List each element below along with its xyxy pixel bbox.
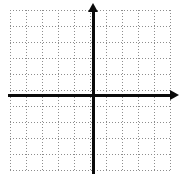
grid-line-vertical — [106, 10, 107, 172]
coordinate-grid-figure: Blank Cartesian coordinate grid with a v… — [0, 0, 180, 182]
x-axis-line — [8, 94, 172, 97]
figure-alt-text: Blank Cartesian coordinate grid with a v… — [0, 0, 1, 1]
grid-line-vertical — [42, 10, 43, 172]
grid-line-vertical — [122, 10, 123, 172]
grid-line-horizontal — [10, 138, 170, 139]
grid-line-horizontal — [10, 42, 170, 43]
y-axis-arrow-icon — [88, 3, 98, 12]
grid-plane — [10, 10, 170, 172]
grid-line-horizontal — [10, 154, 170, 155]
grid-line-horizontal — [10, 74, 170, 75]
grid-line-horizontal — [10, 58, 170, 59]
x-axis-arrow-icon — [170, 90, 179, 100]
grid-line-vertical — [154, 10, 155, 172]
grid-line-vertical — [90, 10, 91, 172]
y-axis-line — [92, 10, 95, 174]
grid-line-vertical — [58, 10, 59, 172]
grid-line-vertical — [26, 10, 27, 172]
grid-line-vertical — [138, 10, 139, 172]
grid-line-horizontal — [10, 106, 170, 107]
grid-line-horizontal — [10, 90, 170, 91]
grid-line-vertical — [10, 10, 11, 172]
grid-line-horizontal — [10, 170, 170, 171]
grid-line-horizontal — [10, 122, 170, 123]
grid-line-vertical — [74, 10, 75, 172]
grid-line-horizontal — [10, 26, 170, 27]
